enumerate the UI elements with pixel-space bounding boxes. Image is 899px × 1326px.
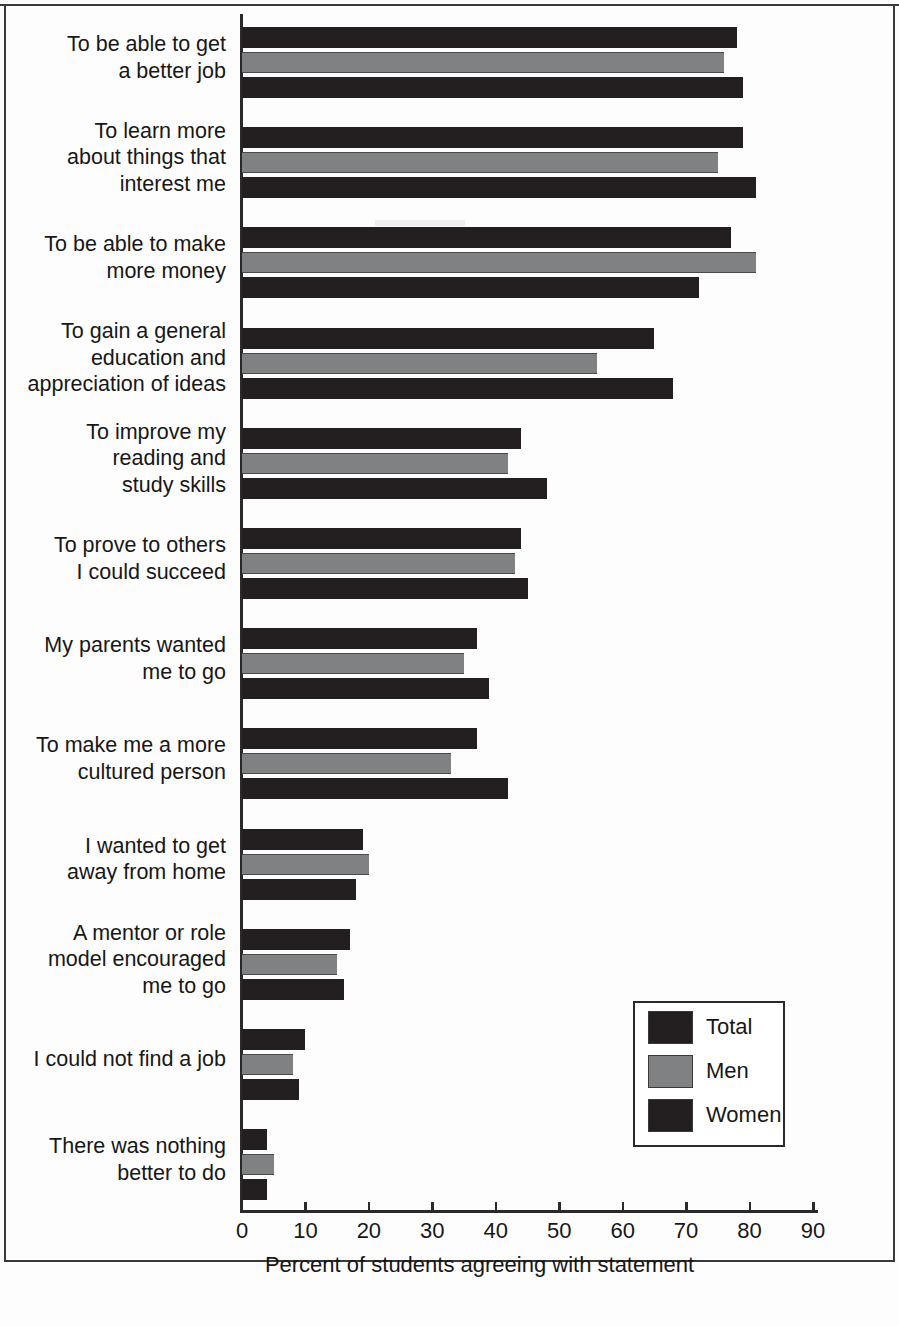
bar-men [242, 854, 369, 875]
bar-total [242, 127, 743, 148]
bar-total [242, 1129, 267, 1150]
bar-total [242, 528, 521, 549]
bar-men [242, 52, 724, 73]
bar-men [242, 954, 337, 975]
bar-women [242, 1179, 267, 1200]
category-label-line: reading and [18, 445, 238, 472]
bar-total [242, 628, 477, 649]
bar-women [242, 678, 489, 699]
x-tick-20 [368, 1202, 371, 1213]
bar-women [242, 478, 547, 499]
category-label-group: A mentor or rolemodel encouragedme to go [0, 920, 238, 1000]
bar-chart-figure: 0102030405060708090 To be able to geta b… [0, 0, 899, 1326]
category-label-group: I could not find a job [0, 1046, 238, 1073]
x-tick-30 [431, 1202, 434, 1213]
category-label-line: me to go [18, 659, 238, 686]
bar-women [242, 879, 356, 900]
legend-label-women: Women [706, 1102, 781, 1128]
x-tick-label-0: 0 [212, 1218, 272, 1244]
legend-swatch-women [648, 1099, 693, 1132]
category-label-line: study skills [18, 472, 238, 499]
legend-swatch-men [648, 1055, 693, 1088]
legend-swatch-total [648, 1011, 693, 1044]
legend-label-men: Men [706, 1058, 749, 1084]
category-label-group: I wanted to getaway from home [0, 833, 238, 886]
x-tick-60 [622, 1202, 625, 1213]
category-label-line: I wanted to get [18, 833, 238, 860]
category-label-line: To learn more [18, 118, 238, 145]
bar-men [242, 1054, 293, 1075]
bar-women [242, 578, 528, 599]
category-label-line: A mentor or role [18, 920, 238, 947]
bar-total [242, 227, 731, 248]
bar-total [242, 428, 521, 449]
category-label-line: better to do [18, 1160, 238, 1187]
x-tick-70 [685, 1202, 688, 1213]
category-label-line: To gain a general [18, 318, 238, 345]
chart-legend: TotalMenWomen [633, 1001, 785, 1147]
bar-total [242, 1029, 305, 1050]
category-label-line: model encouraged [18, 946, 238, 973]
x-tick-0 [241, 1210, 244, 1213]
category-label-line: To improve my [18, 419, 238, 446]
figure-border-right [893, 4, 895, 1262]
bar-total [242, 27, 737, 48]
x-tick-label-90: 90 [783, 1218, 843, 1244]
bar-men [242, 252, 756, 273]
x-tick-40 [495, 1202, 498, 1213]
bar-women [242, 277, 699, 298]
x-tick-label-20: 20 [339, 1218, 399, 1244]
x-tick-90 [812, 1202, 815, 1213]
legend-label-total: Total [706, 1014, 752, 1040]
category-label-group: To be able to makemore money [0, 231, 238, 284]
category-label-line: There was nothing [18, 1133, 238, 1160]
category-label-line: education and [18, 345, 238, 372]
bar-men [242, 152, 718, 173]
bar-men [242, 653, 464, 674]
category-label-group: To improve myreading andstudy skills [0, 419, 238, 499]
category-label-line: To be able to get [18, 31, 238, 58]
category-label-line: To prove to others [18, 532, 238, 559]
category-label-group: My parents wantedme to go [0, 632, 238, 685]
category-label-group: To make me a morecultured person [0, 732, 238, 785]
bar-women [242, 979, 344, 1000]
category-label-group: To prove to othersI could succeed [0, 532, 238, 585]
category-label-line: I could not find a job [18, 1046, 238, 1073]
bar-women [242, 77, 743, 98]
x-tick-label-60: 60 [593, 1218, 653, 1244]
category-label-line: a better job [18, 58, 238, 85]
bar-women [242, 778, 508, 799]
figure-border-top [0, 4, 899, 6]
bar-total [242, 328, 654, 349]
category-label-line: To be able to make [18, 231, 238, 258]
category-label-line: interest me [18, 171, 238, 198]
bar-total [242, 829, 363, 850]
category-label-line: away from home [18, 859, 238, 886]
category-label-line: more money [18, 258, 238, 285]
bar-men [242, 553, 515, 574]
bar-women [242, 1079, 299, 1100]
category-label-line: I could succeed [18, 559, 238, 586]
bar-men [242, 753, 451, 774]
bar-total [242, 929, 350, 950]
bar-women [242, 378, 673, 399]
category-label-line: me to go [18, 973, 238, 1000]
x-tick-50 [558, 1202, 561, 1213]
x-tick-label-50: 50 [529, 1218, 589, 1244]
category-label-group: To gain a generaleducation andappreciati… [0, 318, 238, 398]
category-label-line: To make me a more [18, 732, 238, 759]
category-label-group: To be able to geta better job [0, 31, 238, 84]
bar-men [242, 453, 508, 474]
x-tick-label-70: 70 [656, 1218, 716, 1244]
category-label-line: appreciation of ideas [18, 371, 238, 398]
category-label-line: My parents wanted [18, 632, 238, 659]
x-tick-10 [304, 1202, 307, 1213]
x-tick-label-40: 40 [466, 1218, 526, 1244]
x-tick-80 [749, 1202, 752, 1213]
bar-total [242, 728, 477, 749]
category-label-group: There was nothingbetter to do [0, 1133, 238, 1186]
x-axis-line [240, 1210, 818, 1213]
category-label-line: about things that [18, 144, 238, 171]
bar-men [242, 1154, 274, 1175]
bar-women [242, 177, 756, 198]
